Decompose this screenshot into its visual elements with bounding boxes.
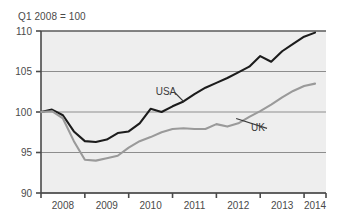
x-tick-label-2012: 2012 [227,200,250,211]
x-tick-label-2014: 2014 [304,200,327,211]
y-axis-ticks: 9095100105110 [15,26,41,199]
x-tick-label-2009: 2009 [96,200,119,211]
y-tick-label-90: 90 [21,188,33,199]
y-tick-label-100: 100 [15,107,32,118]
y-tick-label-95: 95 [21,147,33,158]
y-tick-label-105: 105 [15,66,32,77]
annotation-label-uk: UK [251,122,265,133]
line-chart-plot: 9095100105110 20082009201020112012201320… [0,0,338,220]
x-tick-label-2013: 2013 [271,200,294,211]
y-tick-label-110: 110 [16,26,32,37]
figure-container: Q1 2008 = 100 9095100105110 200820092010… [0,0,338,220]
x-axis-ticks: 2008200920102011201220132014 [41,193,327,211]
x-tick-label-2011: 2011 [184,200,206,211]
x-tick-label-2008: 2008 [52,200,75,211]
annotation-label-usa: USA [156,86,177,97]
x-tick-label-2010: 2010 [139,200,162,211]
